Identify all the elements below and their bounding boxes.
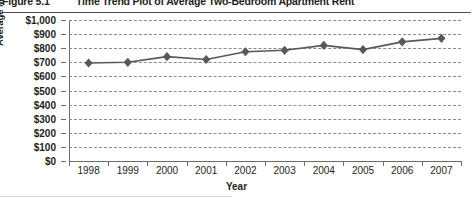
y-axis-tick: [61, 161, 66, 162]
x-axis-tick-label: 2003: [273, 165, 295, 176]
y-axis-tick: [61, 91, 66, 92]
data-point-marker: [437, 34, 445, 43]
x-axis-tick: [304, 161, 305, 166]
x-axis-tick-label: 2002: [234, 165, 256, 176]
x-axis-tick-label: 1999: [117, 165, 139, 176]
x-axis-tick: [265, 161, 266, 166]
x-axis-tick: [226, 161, 227, 166]
y-axis-tick-label: $1,000: [25, 15, 56, 26]
y-axis-tick-label: $900: [34, 29, 56, 40]
figure-number: Figure 5.1: [2, 0, 76, 7]
y-axis-tick-label: $400: [34, 99, 56, 110]
y-axis-tick: [61, 62, 66, 63]
y-axis-tick: [61, 119, 66, 120]
figure-caption: Figure 5.1 Time Trend Plot of Average Tw…: [0, 0, 473, 11]
y-axis-tick-label: $100: [34, 141, 56, 152]
data-point-marker: [124, 58, 132, 67]
y-axis-tick: [61, 147, 66, 148]
x-axis-tick-label: 2006: [391, 165, 413, 176]
y-axis-tick: [61, 20, 66, 21]
x-axis-title: Year: [0, 181, 473, 192]
rent-series: [69, 20, 461, 161]
y-axis-tick-label: $700: [34, 57, 56, 68]
data-point-marker: [320, 41, 328, 50]
x-axis-tick-label: 2001: [195, 165, 217, 176]
x-axis-tick-label: 2004: [313, 165, 335, 176]
y-axis-tick-label: $0: [45, 156, 56, 167]
data-point-marker: [281, 46, 289, 55]
series-line: [89, 38, 442, 63]
footer-divider: [0, 196, 232, 197]
y-axis-tick-label: $200: [34, 127, 56, 138]
y-axis-tick-label: $800: [34, 43, 56, 54]
y-axis-tick-label: $500: [34, 85, 56, 96]
plot-area: [69, 20, 461, 161]
x-axis-tick-label: 2007: [430, 165, 452, 176]
data-point-marker: [163, 52, 171, 61]
x-axis-tick: [383, 161, 384, 166]
data-point-marker: [85, 58, 93, 67]
data-point-marker: [398, 37, 406, 46]
x-axis-tick: [108, 161, 109, 166]
caption-divider: [2, 12, 471, 13]
x-axis-tick: [69, 161, 70, 166]
figure-title: Time Trend Plot of Average Two-Bedroom A…: [76, 0, 354, 7]
data-point-marker: [359, 45, 367, 54]
x-axis-tick: [461, 161, 462, 166]
data-point-marker: [241, 47, 249, 56]
y-axis-labels: $0$100$200$300$400$500$600$700$800$900$1…: [0, 20, 66, 162]
x-axis-tick-label: 2000: [156, 165, 178, 176]
x-axis-tick-label: 1998: [77, 165, 99, 176]
y-axis-tick-label: $600: [34, 71, 56, 82]
y-axis-tick: [61, 133, 66, 134]
y-axis-tick: [61, 105, 66, 106]
x-axis-tick: [147, 161, 148, 166]
x-axis-tick-label: 2005: [352, 165, 374, 176]
y-axis-tick-label: $300: [34, 113, 56, 124]
y-axis-tick: [61, 76, 66, 77]
x-axis-tick: [187, 161, 188, 166]
data-point-marker: [202, 55, 210, 64]
y-axis-tick: [61, 34, 66, 35]
figure-container: Figure 5.1 Time Trend Plot of Average Tw…: [0, 0, 473, 201]
x-axis-tick: [422, 161, 423, 166]
y-axis-tick: [61, 48, 66, 49]
x-axis-tick: [343, 161, 344, 166]
